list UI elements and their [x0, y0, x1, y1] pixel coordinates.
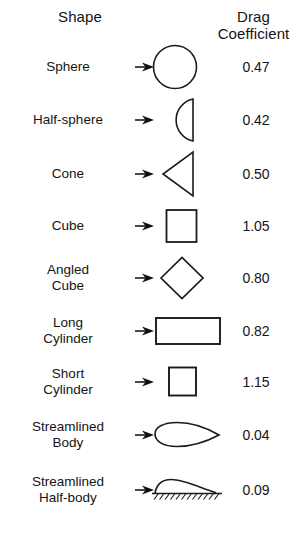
- drag-coefficient-value: 0.82: [222, 305, 290, 357]
- drag-coefficient-value: 0.50: [222, 148, 290, 200]
- shape-label-long-cylinder: Long Cylinder: [2, 305, 134, 357]
- shape-label-streamlined-half-body: Streamlined Half-body: [2, 464, 134, 516]
- sphere-shape: [150, 41, 226, 93]
- drag-coefficient-value: 0.47: [222, 41, 290, 93]
- shape-label-line2: Cube: [47, 278, 89, 294]
- drag-coefficient-value: 0.80: [222, 252, 290, 304]
- drag-coefficient-value: 1.05: [222, 200, 290, 252]
- column-header-drag-line1: Drag: [237, 8, 270, 25]
- shape-label-streamlined-body: Streamlined Body: [2, 409, 134, 461]
- column-header-drag-coefficient: Drag Coefficient: [206, 8, 301, 42]
- table-row: Sphere 0.47: [0, 41, 301, 93]
- table-row: Half-sphere 0.42: [0, 94, 301, 146]
- shape-label-short-cylinder: Short Cylinder: [2, 356, 134, 408]
- shape-label-angled-cube: Angled Cube: [2, 252, 134, 304]
- angled-cube-shape: [150, 252, 226, 304]
- streamlined-half-body-shape: [150, 464, 226, 516]
- shape-label-cone: Cone: [2, 148, 134, 200]
- shape-label-line1: Long: [43, 315, 93, 331]
- shape-label-line1: Streamlined: [32, 474, 104, 490]
- shape-label-line1: Angled: [47, 262, 89, 278]
- shape-label-line1: Streamlined: [32, 419, 104, 435]
- drag-coefficient-value: 0.09: [222, 464, 290, 516]
- column-header-drag-line2: Coefficient: [218, 25, 290, 42]
- shape-label-line1: Sphere: [46, 59, 90, 75]
- streamlined-body-shape: [150, 409, 226, 461]
- drag-coefficient-value: 0.42: [222, 94, 290, 146]
- shape-label-line2: Half-body: [32, 490, 104, 506]
- table-row: Streamlined Half-body: [0, 464, 301, 516]
- cone-shape: [150, 148, 226, 200]
- shape-label-line2: Cylinder: [43, 331, 93, 347]
- shape-label-line1: Cone: [52, 166, 84, 182]
- table-row: Cone 0.50: [0, 148, 301, 200]
- column-header-shape: Shape: [8, 8, 152, 25]
- long-cylinder-shape: [150, 305, 226, 357]
- drag-coefficient-value: 1.15: [222, 356, 290, 408]
- shape-label-sphere: Sphere: [2, 41, 134, 93]
- shape-label-line2: Cylinder: [43, 382, 93, 398]
- table-row: Streamlined Body 0.04: [0, 409, 301, 461]
- cube-shape: [150, 200, 226, 252]
- table-row: Long Cylinder 0.82: [0, 305, 301, 357]
- shape-label-half-sphere: Half-sphere: [2, 94, 134, 146]
- column-header-shape-label: Shape: [58, 8, 102, 25]
- table-row: Cube 1.05: [0, 200, 301, 252]
- short-cylinder-shape: [150, 356, 226, 408]
- drag-coefficient-value: 0.04: [222, 409, 290, 461]
- table-row: Angled Cube 0.80: [0, 252, 301, 304]
- drag-coefficient-figure: Shape Drag Coefficient Sphere 0.47 Half-…: [0, 0, 301, 535]
- shape-label-line1: Half-sphere: [33, 112, 103, 128]
- shape-label-line1: Short: [43, 366, 93, 382]
- half-sphere-shape: [150, 94, 226, 146]
- shape-label-line1: Cube: [52, 218, 84, 234]
- shape-label-cube: Cube: [2, 200, 134, 252]
- table-row: Short Cylinder 1.15: [0, 356, 301, 408]
- shape-label-line2: Body: [32, 435, 104, 451]
